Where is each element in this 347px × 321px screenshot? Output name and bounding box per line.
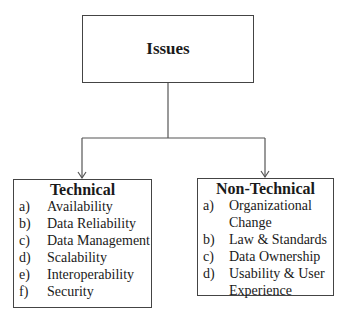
list-item: b)Law & Standards: [198, 231, 333, 248]
item-text: Organizational Change: [229, 197, 333, 231]
item-marker: d): [198, 265, 229, 299]
non-technical-title: Non-Technical: [198, 180, 333, 197]
list-item: c)Data Ownership: [198, 248, 333, 265]
item-text: Security: [47, 283, 151, 300]
item-text: Data Management: [47, 232, 151, 249]
item-text: Data Ownership: [229, 248, 333, 265]
item-text: Interoperability: [47, 266, 151, 283]
item-marker: d): [14, 249, 47, 266]
technical-title: Technical: [14, 181, 151, 198]
item-text: Availability: [47, 198, 151, 215]
issues-title: Issues: [146, 39, 189, 59]
list-item: d)Scalability: [14, 249, 151, 266]
item-text: Data Reliability: [47, 215, 151, 232]
technical-list: a)Availability b)Data Reliability c)Data…: [14, 198, 151, 300]
item-marker: a): [14, 198, 47, 215]
item-marker: c): [14, 232, 47, 249]
item-text: Scalability: [47, 249, 151, 266]
technical-box: Technical a)Availability b)Data Reliabil…: [13, 179, 152, 308]
item-text: Usability & User Experience: [229, 265, 333, 299]
list-item: e)Interoperability: [14, 266, 151, 283]
non-technical-box: Non-Technical a)Organizational Change b)…: [197, 178, 334, 296]
list-item: a)Availability: [14, 198, 151, 215]
item-marker: f): [14, 283, 47, 300]
non-technical-list: a)Organizational Change b)Law & Standard…: [198, 197, 333, 299]
item-marker: e): [14, 266, 47, 283]
list-item: c)Data Management: [14, 232, 151, 249]
item-marker: b): [198, 231, 229, 248]
item-marker: b): [14, 215, 47, 232]
list-item: a)Organizational Change: [198, 197, 333, 231]
list-item: d)Usability & User Experience: [198, 265, 333, 299]
issues-box: Issues: [82, 15, 254, 83]
item-marker: c): [198, 248, 229, 265]
item-text: Law & Standards: [229, 231, 333, 248]
item-marker: a): [198, 197, 229, 231]
list-item: b)Data Reliability: [14, 215, 151, 232]
list-item: f)Security: [14, 283, 151, 300]
